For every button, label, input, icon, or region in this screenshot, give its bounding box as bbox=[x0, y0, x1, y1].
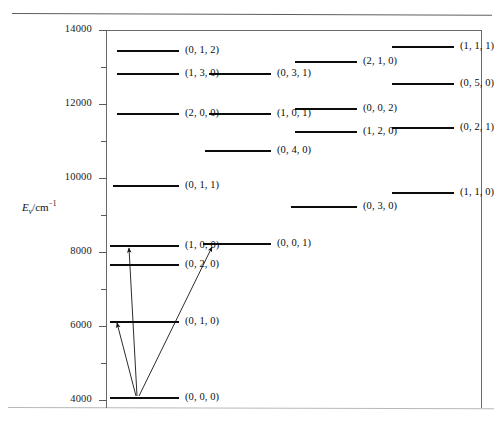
energy-level-line bbox=[392, 83, 454, 85]
energy-level-label: (1, 1, 0) bbox=[460, 186, 494, 197]
energy-level-line bbox=[110, 397, 179, 399]
energy-level-line bbox=[295, 108, 357, 110]
energy-level-line bbox=[205, 150, 271, 152]
y-axis-major-tick bbox=[99, 178, 107, 179]
energy-level-line bbox=[113, 185, 179, 187]
energy-level-label: (0, 3, 0) bbox=[363, 200, 397, 211]
energy-level-line bbox=[209, 113, 271, 115]
y-axis-tick-label: 8000 bbox=[40, 245, 92, 256]
energy-level-label: (0, 1, 1) bbox=[185, 179, 219, 190]
transition-arrows-layer bbox=[0, 0, 504, 427]
y-axis-title: Ev/cm−1 bbox=[22, 199, 56, 216]
y-axis-major-tick bbox=[99, 252, 107, 253]
energy-level-line bbox=[392, 192, 454, 194]
energy-level-line bbox=[117, 50, 179, 52]
y-axis-major-tick bbox=[99, 30, 107, 31]
energy-level-line bbox=[110, 264, 179, 266]
y-axis-tick-label: 6000 bbox=[40, 319, 92, 330]
page-border-bottom bbox=[8, 407, 494, 409]
energy-level-label: (0, 1, 2) bbox=[185, 44, 219, 55]
y-axis-tick-label: 14000 bbox=[40, 23, 92, 34]
energy-level-line bbox=[295, 61, 357, 63]
energy-level-label: (0, 1, 0) bbox=[185, 315, 219, 326]
energy-level-label: (0, 0, 2) bbox=[363, 102, 397, 113]
y-axis-major-tick bbox=[99, 326, 107, 327]
y-axis-title-symbol: E bbox=[22, 201, 29, 213]
page-border-top bbox=[12, 13, 492, 16]
y-axis-tick-label: 10000 bbox=[40, 171, 92, 182]
y-axis-minor-tick bbox=[101, 215, 107, 216]
energy-level-label: (2, 1, 0) bbox=[363, 55, 397, 66]
energy-level-line bbox=[110, 321, 179, 323]
y-axis-minor-tick bbox=[101, 363, 107, 364]
y-axis-minor-tick bbox=[101, 289, 107, 290]
y-axis-major-tick bbox=[99, 400, 107, 401]
energy-level-line bbox=[392, 46, 454, 48]
energy-level-label: (0, 0, 0) bbox=[185, 391, 219, 402]
energy-level-diagram: Ev/cm−1 140001200010000800060004000 (0, … bbox=[0, 0, 504, 427]
energy-level-line bbox=[209, 73, 271, 75]
y-axis-line bbox=[106, 30, 107, 408]
energy-level-line bbox=[291, 206, 357, 208]
y-axis-minor-tick bbox=[101, 141, 107, 142]
energy-level-line bbox=[392, 127, 454, 129]
transition-to-bend bbox=[117, 323, 136, 396]
y-axis-tick-label: 12000 bbox=[40, 97, 92, 108]
y-axis-major-tick bbox=[99, 104, 107, 105]
energy-level-line bbox=[117, 113, 179, 115]
y-axis-title-exponent: −1 bbox=[49, 199, 57, 208]
energy-level-line bbox=[110, 245, 179, 247]
energy-level-line bbox=[117, 73, 179, 75]
energy-level-label: (0, 2, 1) bbox=[460, 121, 494, 132]
y-axis-tick-label: 4000 bbox=[40, 393, 92, 404]
energy-level-label: (0, 4, 0) bbox=[277, 144, 311, 155]
energy-level-label: (0, 0, 1) bbox=[277, 237, 311, 248]
energy-level-line bbox=[203, 243, 271, 245]
energy-level-label: (1, 1, 1) bbox=[460, 40, 494, 51]
y-axis-title-unit: /cm bbox=[32, 201, 49, 213]
energy-level-label: (0, 3, 1) bbox=[277, 67, 311, 78]
energy-level-label: (0, 2, 0) bbox=[185, 258, 219, 269]
y-axis-minor-tick bbox=[101, 67, 107, 68]
energy-level-line bbox=[295, 131, 357, 133]
energy-level-label: (0, 5, 0) bbox=[460, 77, 494, 88]
plot-frame-top bbox=[106, 30, 482, 31]
